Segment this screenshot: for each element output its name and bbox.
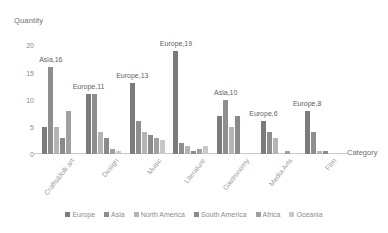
bar[interactable] [317,151,322,154]
bar[interactable] [86,94,91,154]
bar[interactable] [66,111,71,154]
bar-group [169,40,213,154]
bar[interactable] [197,149,202,154]
y-tick-label: 10 [26,96,34,103]
bar[interactable] [173,51,178,154]
bar[interactable] [311,132,316,154]
bar-value-label: Europe,13 [116,72,148,79]
bar-value-label: Europe,19 [160,40,192,47]
x-tick-label: Film [324,157,338,172]
bar[interactable] [154,138,159,154]
bar-value-label: Asia,16 [39,56,62,63]
bar[interactable] [54,127,59,154]
bar[interactable] [179,143,184,154]
bar-value-label: Europe,11 [73,83,105,90]
plot-area: 05101520 Asia,16Europe,11Europe,13Europe… [38,40,344,154]
bar[interactable] [136,121,141,154]
bar[interactable] [130,83,135,154]
bar[interactable] [229,127,234,154]
legend-item[interactable]: Oceania [289,211,322,218]
legend-item[interactable]: Africa [256,211,281,218]
bar[interactable] [92,94,97,154]
chart-legend: EuropeAsiaNorth AmericaSouth AmericaAfri… [0,211,388,218]
legend-swatch [194,212,199,217]
bar[interactable] [235,116,240,154]
y-axis-title: Quantity [14,16,43,25]
x-tick-label: Crafts&folk art [43,157,76,196]
legend-swatch [256,212,261,217]
bar[interactable] [104,138,109,154]
bar[interactable] [160,140,165,154]
bar[interactable] [185,146,190,154]
bar-group [82,40,126,154]
legend-item[interactable]: Europe [65,211,95,218]
bar[interactable] [110,149,115,154]
bar[interactable] [142,132,147,154]
y-tick-label: 15 [26,69,34,76]
bar[interactable] [267,132,272,154]
legend-label: North America [141,211,185,218]
bar-group [300,40,344,154]
y-tick-label: 20 [26,42,34,49]
legend-item[interactable]: Asia [104,211,125,218]
x-tick-label: Music [146,157,163,176]
bar[interactable] [273,138,278,154]
legend-label: South America [201,211,247,218]
bar[interactable] [148,135,153,154]
bar-group [213,40,257,154]
bar[interactable] [42,127,47,154]
x-tick-label: Design [100,157,119,178]
legend-swatch [289,212,294,217]
bar-value-label: Europe,6 [249,110,277,117]
bar[interactable] [98,132,103,154]
bar[interactable] [116,151,121,154]
y-tick-label: 5 [30,123,34,130]
bar-value-label: Europe,8 [293,100,321,107]
legend-swatch [134,212,139,217]
bar[interactable] [261,121,266,154]
legend-item[interactable]: South America [194,211,247,218]
bar[interactable] [191,151,196,154]
bar[interactable] [203,146,208,154]
legend-swatch [65,212,70,217]
x-axis-title: Category [347,148,377,157]
legend-label: Oceania [296,211,322,218]
bar[interactable] [305,111,310,154]
bar-group [125,40,169,154]
bar[interactable] [223,100,228,154]
x-tick-label: Gastronomy [221,157,250,191]
bar-chart: Quantity Category 05101520 Asia,16Europe… [0,0,388,233]
legend-swatch [104,212,109,217]
legend-label: Asia [111,211,125,218]
legend-label: Africa [263,211,281,218]
bar[interactable] [60,138,65,154]
x-tick-label: Literature [183,157,207,185]
bar-value-label: Asia,10 [214,89,237,96]
x-tick-label: Media Arts [268,157,294,187]
y-tick-label: 0 [30,151,34,158]
bar[interactable] [217,116,222,154]
bar-group [257,40,301,154]
bar[interactable] [323,151,328,154]
bar[interactable] [48,67,53,154]
legend-label: Europe [72,211,95,218]
legend-item[interactable]: North America [134,211,185,218]
bar[interactable] [285,151,290,154]
